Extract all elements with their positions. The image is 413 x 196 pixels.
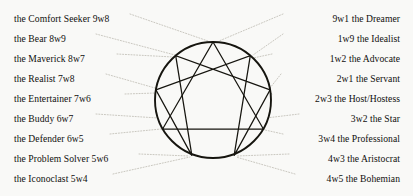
wing-label-left-8: the Problem Solver 5w6 bbox=[14, 153, 108, 164]
wing-label-left-2: the Bear 8w9 bbox=[14, 33, 66, 44]
wing-label-left-7: the Defender 6w5 bbox=[14, 133, 84, 144]
enneagram-diagram: the Comfort Seeker 9w8the Bear 8w9the Ma… bbox=[0, 0, 413, 196]
wing-label-left-1: the Comfort Seeker 9w8 bbox=[14, 13, 109, 24]
wing-label-right-8: 4w3 the Aristocrat bbox=[328, 153, 400, 164]
wing-label-left-5: the Entertainer 7w6 bbox=[14, 93, 91, 104]
wing-label-right-1: 9w1 the Dreamer bbox=[333, 13, 401, 24]
wing-label-right-9: 4w5 the Bohemian bbox=[327, 173, 400, 184]
wing-label-left-9: the Iconoclast 5w4 bbox=[14, 173, 88, 184]
wing-label-right-5: 2w3 the Host/Hostess bbox=[315, 93, 400, 104]
wing-label-left-4: the Realist 7w8 bbox=[14, 73, 75, 84]
wing-label-left-6: the Buddy 6w7 bbox=[14, 113, 73, 124]
wing-label-right-3: 1w2 the Advocate bbox=[330, 53, 400, 64]
right-label-column: 9w1 the Dreamer1w9 the Idealist1w2 the A… bbox=[250, 0, 400, 196]
wing-label-right-4: 2w1 the Servant bbox=[337, 73, 400, 84]
wing-label-right-7: 3w4 the Professional bbox=[318, 133, 400, 144]
wing-label-right-6: 3w2 the Star bbox=[351, 113, 400, 124]
wing-label-left-3: the Maverick 8w7 bbox=[14, 53, 85, 64]
left-label-column: the Comfort Seeker 9w8the Bear 8w9the Ma… bbox=[14, 0, 164, 196]
wing-label-right-2: 1w9 the Idealist bbox=[338, 33, 400, 44]
